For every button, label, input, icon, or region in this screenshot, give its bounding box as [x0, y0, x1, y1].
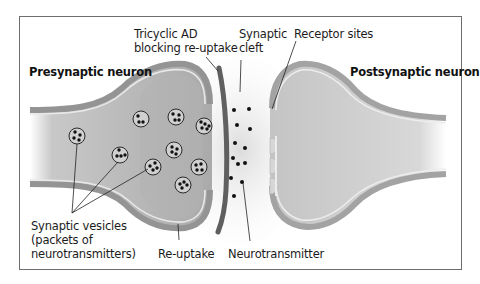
synaptic-vesicles-label-line1: Synaptic vesicles	[31, 220, 127, 233]
reuptake-label: Re-uptake	[158, 248, 214, 261]
receptor-sites-label: Receptor sites	[294, 28, 373, 41]
neurotransmitter-label: Neurotransmitter	[228, 248, 324, 261]
synaptic-vesicles-label-line2: (packets of	[31, 234, 93, 247]
synaptic-cleft-label-line1: Synaptic	[239, 28, 287, 41]
tricyclic-label-line2: blocking re-uptake	[134, 42, 238, 55]
synaptic-vesicles-label-line3: neurotransmitters)	[31, 248, 136, 261]
postsynaptic-neuron-label: Postsynaptic neuron	[350, 66, 480, 79]
presynaptic-neuron-label: Presynaptic neuron	[29, 66, 152, 79]
synaptic-cleft-label-line2: cleft	[239, 42, 263, 55]
tricyclic-label-line1: Tricyclic AD	[134, 28, 197, 41]
